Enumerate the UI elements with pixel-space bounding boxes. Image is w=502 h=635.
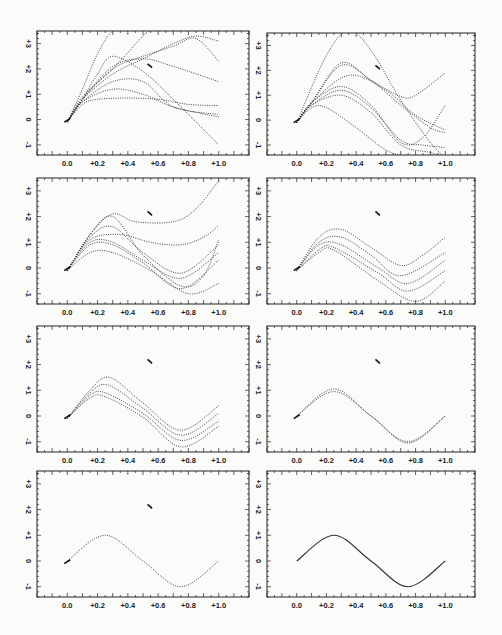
x-tick-label: +0.6 (151, 308, 166, 317)
y-tick-label: +1 (24, 531, 33, 540)
x-tick-label: +0.6 (378, 308, 393, 317)
x-tick-label: +0.2 (90, 601, 105, 610)
y-tick-label: +3 (24, 39, 33, 48)
y-tick-label: +3 (24, 187, 33, 196)
figure: 0.0+0.2+0.4+0.6+0.8+1.0-10+1+2+30.0+0.2+… (0, 0, 502, 635)
marker-dash (375, 65, 379, 69)
x-tick-label: +0.2 (319, 456, 334, 465)
x-tick-label: +0.6 (378, 601, 393, 610)
data-series (67, 391, 218, 440)
y-tick-label: -1 (24, 142, 33, 149)
x-tick-label: +1.0 (438, 456, 453, 465)
x-tick-label: +0.8 (181, 159, 196, 168)
data-series (297, 535, 446, 586)
x-tick-label: +1.0 (438, 159, 453, 168)
plot-frame (37, 326, 249, 452)
y-tick-label: +1 (254, 386, 263, 395)
x-tick-label: +0.6 (378, 159, 393, 168)
y-tick-label: 0 (24, 266, 33, 270)
data-series (67, 250, 218, 294)
y-tick-label: +1 (254, 91, 263, 100)
y-tick-label: +2 (24, 360, 33, 369)
y-tick-label: +1 (24, 238, 33, 247)
x-tick-label: +0.2 (90, 456, 105, 465)
chart-panel-3: 0.0+0.2+0.4+0.6+0.8+1.0-10+1+2+3 (24, 178, 249, 317)
x-tick-label: +0.4 (349, 159, 365, 168)
y-tick-label: +1 (254, 238, 263, 247)
x-tick-label: +1.0 (211, 159, 226, 168)
x-tick-label: 0.0 (291, 456, 301, 465)
data-series (67, 181, 218, 271)
chart-panel-1: 0.0+0.2+0.4+0.6+0.8+1.0-10+1+2+3 (24, 29, 249, 168)
plot-frame (267, 471, 475, 597)
x-tick-label: +0.2 (319, 308, 334, 317)
chart-panel-6: 0.0+0.2+0.4+0.6+0.8+1.0-10+1+2+3 (254, 326, 475, 465)
y-tick-label: -1 (24, 290, 33, 297)
data-series (297, 30, 446, 157)
data-series (297, 65, 446, 133)
marker-dash (64, 560, 70, 564)
y-tick-label: -1 (254, 583, 263, 590)
plot-frame (37, 31, 249, 155)
y-tick-label: +2 (254, 66, 263, 75)
chart-panel-5: 0.0+0.2+0.4+0.6+0.8+1.0-10+1+2+3 (24, 326, 249, 465)
x-tick-label: +0.2 (90, 159, 105, 168)
x-tick-label: +0.6 (378, 456, 393, 465)
x-tick-label: +0.4 (349, 308, 365, 317)
y-tick-label: +3 (254, 41, 263, 50)
x-tick-label: +0.2 (90, 308, 105, 317)
data-series (297, 242, 446, 284)
marker-dash (375, 211, 379, 215)
marker-dash (294, 415, 300, 419)
x-tick-label: +0.8 (181, 456, 196, 465)
y-tick-label: 0 (24, 117, 33, 121)
chart-panel-8: 0.0+0.2+0.4+0.6+0.8+1.0-10+1+2+3 (254, 471, 475, 610)
data-series (67, 242, 218, 288)
x-tick-label: +1.0 (211, 308, 226, 317)
x-tick-label: +0.8 (408, 308, 423, 317)
data-series (67, 36, 218, 122)
data-series (297, 75, 446, 130)
x-tick-label: +0.4 (120, 308, 136, 317)
x-tick-label: +0.4 (120, 456, 136, 465)
y-tick-label: 0 (24, 414, 33, 418)
x-tick-label: 0.0 (62, 159, 72, 168)
data-series (67, 226, 218, 271)
x-tick-label: 0.0 (291, 159, 301, 168)
x-tick-label: +0.6 (151, 159, 166, 168)
marker-dash (148, 359, 153, 363)
x-tick-label: +0.4 (120, 159, 136, 168)
y-tick-label: +3 (24, 335, 33, 344)
y-tick-label: +2 (254, 505, 263, 514)
x-tick-label: +0.4 (349, 601, 365, 610)
x-tick-label: +0.8 (408, 159, 423, 168)
y-tick-label: +2 (254, 212, 263, 221)
data-series (67, 395, 218, 447)
x-tick-label: +1.0 (211, 601, 226, 610)
data-series (297, 246, 446, 292)
data-series (297, 389, 446, 442)
data-series (297, 236, 446, 275)
marker-dash (148, 211, 153, 215)
y-tick-label: +1 (24, 90, 33, 99)
data-series (297, 95, 446, 157)
y-tick-label: -1 (254, 290, 263, 297)
x-tick-label: 0.0 (62, 456, 72, 465)
y-tick-label: -1 (254, 142, 263, 149)
y-tick-label: +2 (24, 212, 33, 221)
x-tick-label: +0.6 (151, 456, 166, 465)
y-tick-label: +3 (254, 187, 263, 196)
x-tick-label: 0.0 (291, 308, 301, 317)
y-tick-label: +3 (24, 480, 33, 489)
plot-frame (267, 33, 475, 155)
data-series (297, 106, 408, 158)
y-tick-label: -1 (24, 438, 33, 445)
x-tick-label: +0.8 (408, 601, 423, 610)
x-tick-label: +0.8 (181, 601, 196, 610)
y-tick-label: +2 (254, 360, 263, 369)
x-tick-label: +0.4 (349, 456, 365, 465)
data-series (67, 216, 218, 287)
y-tick-label: +1 (24, 386, 33, 395)
data-series (297, 90, 446, 147)
y-tick-label: 0 (24, 559, 33, 563)
